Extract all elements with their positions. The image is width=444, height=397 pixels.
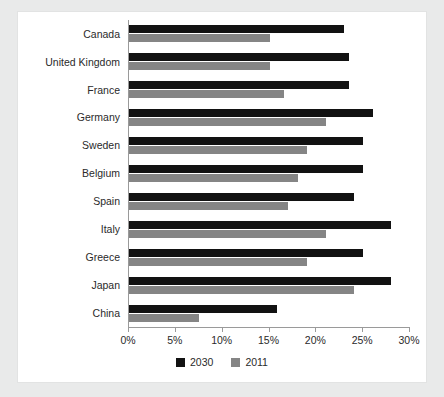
x-axis-tick xyxy=(362,327,363,332)
bar-2011 xyxy=(129,146,307,154)
bar-group xyxy=(129,215,410,243)
gray-square-swatch xyxy=(231,358,240,367)
category-label: Greece xyxy=(18,243,126,271)
x-axis-tick xyxy=(128,327,129,332)
x-axis-tick-label: 25% xyxy=(352,334,373,346)
black-square-swatch xyxy=(176,358,185,367)
bar-2011 xyxy=(129,62,270,70)
bar-2011 xyxy=(129,90,284,98)
bar-2011 xyxy=(129,286,354,294)
category-label: Belgium xyxy=(18,160,126,188)
bar-group xyxy=(129,187,410,215)
legend-item: 2011 xyxy=(231,357,268,368)
bar-2011 xyxy=(129,118,326,126)
x-axis-tick xyxy=(222,327,223,332)
bar-2030 xyxy=(129,137,363,145)
screenshot-root: CanadaUnited KingdomFranceGermanySwedenB… xyxy=(0,0,444,397)
x-axis-tick xyxy=(409,327,410,332)
bar-group xyxy=(129,299,410,327)
bar-2030 xyxy=(129,305,277,313)
bar-2030 xyxy=(129,109,373,117)
chart-card: CanadaUnited KingdomFranceGermanySwedenB… xyxy=(17,11,427,383)
x-axis-tick-label: 10% xyxy=(211,334,232,346)
bar-2011 xyxy=(129,202,288,210)
bar-chart: CanadaUnited KingdomFranceGermanySwedenB… xyxy=(18,12,426,382)
bar-2030 xyxy=(129,25,344,33)
x-axis-tick-label: 20% xyxy=(305,334,326,346)
category-label: France xyxy=(18,76,126,104)
bar-2030 xyxy=(129,249,363,257)
bar-group xyxy=(129,76,410,104)
bar-group xyxy=(129,243,410,271)
bar-2011 xyxy=(129,314,199,322)
legend-item: 2030 xyxy=(176,357,213,368)
x-axis-tick xyxy=(315,327,316,332)
x-axis-tick-label: 0% xyxy=(120,334,135,346)
legend-label: 2011 xyxy=(245,357,268,368)
bar-2030 xyxy=(129,277,391,285)
bar-2011 xyxy=(129,230,326,238)
bar-group xyxy=(129,132,410,160)
bar-group xyxy=(129,271,410,299)
plot-area: CanadaUnited KingdomFranceGermanySwedenB… xyxy=(18,20,426,340)
category-label: Sweden xyxy=(18,132,126,160)
category-label: United Kingdom xyxy=(18,48,126,76)
category-label: Italy xyxy=(18,215,126,243)
category-label: Canada xyxy=(18,20,126,48)
bar-2030 xyxy=(129,193,354,201)
x-axis-tick xyxy=(175,327,176,332)
bar-group xyxy=(129,160,410,188)
bar-group xyxy=(129,104,410,132)
chart-legend: 20302011 xyxy=(18,357,426,368)
category-label: Germany xyxy=(18,104,126,132)
bar-2030 xyxy=(129,221,391,229)
category-label: Spain xyxy=(18,187,126,215)
legend-label: 2030 xyxy=(190,357,213,368)
bar-2030 xyxy=(129,53,349,61)
category-axis-labels: CanadaUnited KingdomFranceGermanySwedenB… xyxy=(18,20,126,327)
bars-container xyxy=(128,20,410,327)
x-axis-tick-label: 5% xyxy=(167,334,182,346)
bar-2030 xyxy=(129,81,349,89)
bar-group xyxy=(129,20,410,48)
x-axis-tick xyxy=(269,327,270,332)
bar-2011 xyxy=(129,258,307,266)
x-axis-tick-label: 15% xyxy=(258,334,279,346)
category-label: Japan xyxy=(18,271,126,299)
bar-2030 xyxy=(129,165,363,173)
bar-2011 xyxy=(129,174,298,182)
bar-group xyxy=(129,48,410,76)
x-axis-tick-label: 30% xyxy=(398,334,419,346)
category-label: China xyxy=(18,299,126,327)
bar-2011 xyxy=(129,34,270,42)
